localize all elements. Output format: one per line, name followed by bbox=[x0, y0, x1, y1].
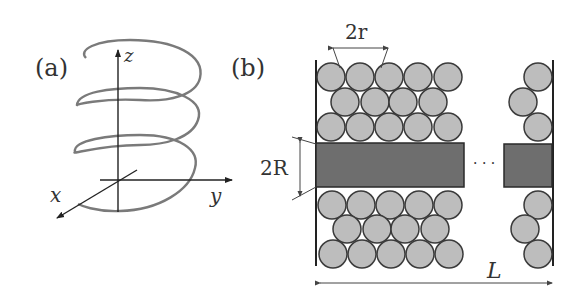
rod-diameter-label: 2R bbox=[260, 156, 289, 180]
length-label: L bbox=[486, 258, 502, 283]
rod-diameter-guide-top bbox=[292, 137, 316, 144]
z-axis-label: z bbox=[123, 45, 134, 66]
rod-left-segment bbox=[316, 143, 464, 187]
rod-diameter-text: 2R bbox=[260, 156, 289, 180]
particle-diameter-text: 2r bbox=[345, 20, 368, 44]
ellipsis: · · · bbox=[473, 155, 495, 171]
helix-curve bbox=[74, 40, 200, 211]
panel-a: (a) z y x bbox=[35, 40, 232, 218]
diagram-canvas: (a) z y x (b) · · · bbox=[0, 0, 582, 297]
y-axis-label: y bbox=[209, 184, 222, 208]
panel-b-label: (b) bbox=[231, 54, 265, 82]
rod-diameter-guide-bottom bbox=[292, 187, 316, 200]
figure: (a) z y x (b) · · · bbox=[0, 0, 582, 297]
x-axis-label: x bbox=[50, 183, 61, 207]
panel-a-label: (a) bbox=[35, 54, 68, 82]
rod-right-segment bbox=[504, 144, 552, 187]
panel-b: (b) · · · 2r 2R L bbox=[231, 20, 553, 283]
particle-diameter-label: 2r bbox=[345, 20, 368, 44]
